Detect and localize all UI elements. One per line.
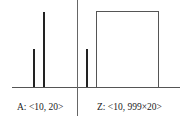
panel-divider [77, 0, 78, 116]
panel-z-label: Z: <10, 999×20> [97, 102, 162, 112]
baseline-axis [12, 87, 180, 88]
panel-z-box-999x20 [96, 11, 159, 87]
panel-a-label: A: <10, 20> [17, 102, 63, 112]
panel-a-bar-10 [33, 49, 35, 87]
panel-z-bar-10 [86, 49, 88, 87]
panel-a-bar-20 [43, 12, 45, 87]
